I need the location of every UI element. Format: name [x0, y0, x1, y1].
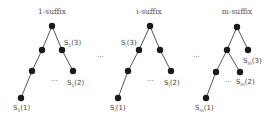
suffix-label-2: Sm(2): [236, 78, 255, 87]
tree-node: [18, 95, 24, 101]
tree-node: [147, 23, 153, 29]
ellipsis: ···: [225, 78, 232, 86]
tree-title: m-suffix: [222, 7, 253, 16]
suffix-trees-diagram: 1-suffix S1(3) S1(2) S1(1) ··· ··· i-suf…: [0, 0, 275, 122]
ellipsis-between-2: ···: [193, 53, 200, 61]
tree-i-suffix: i-suffix Si(3) Si(2) Si(1) ···: [110, 7, 180, 113]
suffix-label-2: S1(2): [67, 79, 85, 88]
tree-node: [234, 24, 240, 30]
tree-node: [39, 47, 45, 53]
tree-node: [245, 47, 251, 53]
suffix-label-3: S1(3): [64, 39, 82, 48]
suffix-label-1: S1(1): [13, 104, 31, 113]
suffix-label-3: Si(3): [121, 39, 137, 48]
ellipsis-between-1: ···: [97, 53, 104, 61]
suffix-label-2: Si(2): [164, 79, 180, 88]
tree-node: [136, 47, 142, 53]
tree-title: 1-suffix: [38, 7, 67, 16]
tree-node: [115, 95, 121, 101]
tree-node: [70, 68, 76, 74]
tree-node: [213, 69, 219, 75]
tree-title: i-suffix: [136, 7, 162, 16]
ellipsis: ···: [147, 77, 154, 85]
tree-node: [157, 47, 163, 53]
suffix-label-3: Sm(3): [243, 57, 262, 66]
ellipsis: ···: [51, 77, 58, 85]
suffix-label-1: Si(1): [110, 104, 126, 113]
suffix-label-1: Sm(1): [195, 104, 214, 113]
tree-1-suffix: 1-suffix S1(3) S1(2) S1(1) ···: [13, 7, 85, 113]
tree-node: [29, 68, 35, 74]
tree-node: [49, 23, 55, 29]
tree-m-suffix: m-suffix Sm(3) Sm(2) Sm(1) ···: [195, 7, 262, 113]
tree-node: [59, 47, 65, 53]
tree-node: [168, 68, 174, 74]
tree-node: [203, 95, 209, 101]
tree-node: [224, 47, 230, 53]
tree-node: [125, 68, 131, 74]
tree-node: [237, 69, 243, 75]
